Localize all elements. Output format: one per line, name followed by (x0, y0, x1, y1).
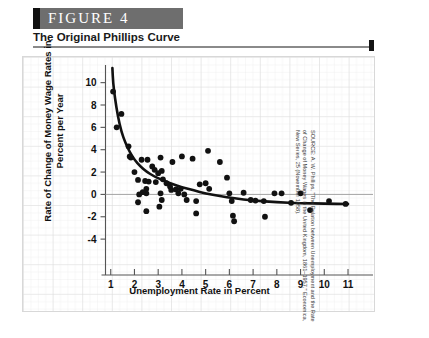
svg-text:0: 0 (91, 189, 97, 200)
svg-text:8: 8 (91, 100, 97, 111)
chart-panel: 1086420-2-41234567891011 Rate of Change … (22, 56, 375, 312)
figure-number-label: FIGURE 4 (40, 10, 129, 27)
axes-layer (101, 65, 373, 275)
svg-text:-4: -4 (88, 234, 97, 245)
svg-text:10: 10 (85, 77, 97, 88)
x-axis-title: Unemployment Rate in Percent (23, 285, 376, 296)
figure-header-accent-bar (33, 8, 40, 29)
source-note: SOURCE: A. W. Phillips, "The Relation be… (293, 130, 316, 326)
figure-header-banner: FIGURE 4 (33, 8, 183, 29)
scatter-plot: 1086420-2-41234567891011 (23, 57, 376, 313)
svg-text:6: 6 (91, 122, 97, 133)
svg-text:-2: -2 (88, 211, 97, 222)
title-rule-end-cap (369, 40, 374, 51)
y-axis-title: Rate of Change of Money Wage Rates in Pe… (42, 36, 66, 226)
svg-text:2: 2 (91, 167, 97, 178)
svg-text:4: 4 (91, 144, 97, 155)
title-divider-rule (33, 46, 373, 48)
